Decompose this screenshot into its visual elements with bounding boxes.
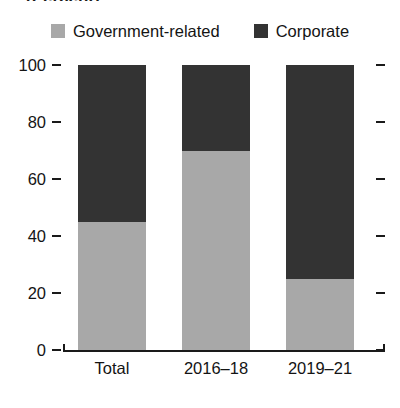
y-tick-mark-left-60 [52, 178, 61, 180]
bar-stack-2019-21[interactable] [286, 65, 354, 350]
y-tick-mark-left-100 [52, 64, 61, 66]
y-tick-mark-left-40 [52, 235, 61, 237]
y-tick-label-60: 60 [10, 171, 46, 188]
y-tick-label-0: 0 [10, 342, 46, 359]
stacked-bar-chart: (Percent) Government-related Corporate 1… [0, 0, 400, 408]
bar-segment-total-corporate[interactable] [78, 65, 146, 222]
y-tick-mark-left-80 [52, 121, 61, 123]
y-tick-mark-right-80 [376, 121, 385, 123]
bar-segment-2016-18-corporate[interactable] [182, 65, 250, 151]
y-tick-label-100: 100 [10, 57, 46, 74]
bar-stack-total[interactable] [78, 65, 146, 350]
bar-segment-2019-21-corporate[interactable] [286, 65, 354, 279]
x-axis-left-stub [63, 344, 65, 352]
x-axis-right-stub [383, 344, 385, 352]
y-tick-mark-right-100 [376, 64, 385, 66]
bar-stack-2016-18[interactable] [182, 65, 250, 350]
x-tick-label-2019-21: 2019–21 [265, 360, 375, 377]
x-axis-baseline [63, 350, 385, 352]
bar-segment-2016-18-government-related[interactable] [182, 151, 250, 351]
y-tick-mark-right-40 [376, 235, 385, 237]
y-axis-tick-labels: 100 80 60 40 20 0 [10, 0, 46, 408]
y-tick-label-80: 80 [10, 114, 46, 131]
plot-area: 100 80 60 40 20 0 Total 2016–18 2019–21 [0, 0, 400, 408]
x-tick-label-total: Total [57, 360, 167, 377]
y-tick-mark-left-0 [52, 349, 61, 351]
y-tick-label-20: 20 [10, 285, 46, 302]
x-tick-label-2016-18: 2016–18 [161, 360, 271, 377]
bar-segment-2019-21-government-related[interactable] [286, 279, 354, 350]
y-tick-mark-right-20 [376, 292, 385, 294]
y-tick-mark-left-20 [52, 292, 61, 294]
bar-segment-total-government-related[interactable] [78, 222, 146, 350]
y-tick-label-40: 40 [10, 228, 46, 245]
y-tick-mark-right-60 [376, 178, 385, 180]
